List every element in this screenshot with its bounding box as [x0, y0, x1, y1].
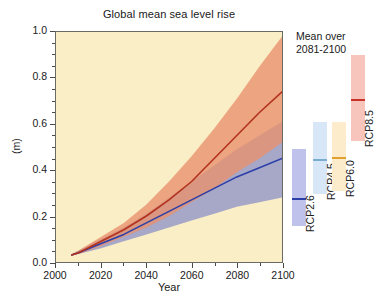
rcp-median-line: [332, 157, 346, 159]
rcp-median-line: [313, 159, 327, 161]
rcp-median-line: [351, 99, 365, 101]
rcp-bar-label: RCP6.0: [344, 161, 356, 198]
rcp-bars-legend: RCP2.6RCP4.5RCP6.0RCP8.5: [0, 0, 377, 302]
chart-root: Global mean sea level rise (m) Year 0.00…: [0, 0, 377, 302]
rcp-bar-label: RCP2.6: [304, 195, 316, 232]
rcp-bar-label: RCP8.5: [363, 110, 375, 147]
